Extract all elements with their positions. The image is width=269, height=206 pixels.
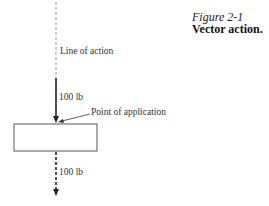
figure-title: Vector action. — [192, 23, 263, 35]
rigid-body — [14, 124, 97, 151]
point-of-application-label: Point of application — [91, 108, 166, 118]
transmitted-force-arrowhead-icon — [53, 189, 59, 196]
line-of-action-label: Line of action — [60, 47, 113, 57]
point-pointer-arrowhead-icon — [58, 119, 64, 123]
point-pointer-line — [62, 114, 90, 121]
transmitted-force-label: 100 lb — [59, 168, 83, 178]
applied-force-label: 100 lb — [59, 93, 83, 103]
